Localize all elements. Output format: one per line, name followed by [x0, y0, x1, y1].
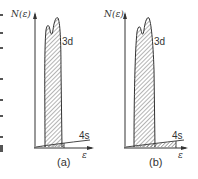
panel-a: N(ε) 3d 4s ε (a)	[10, 9, 94, 168]
cropped-text-fragment	[0, 32, 3, 34]
cropped-text-fragment	[0, 115, 3, 117]
band-3d-a	[45, 18, 62, 147]
band-3d-b	[134, 18, 155, 147]
panel-b: N(ε) 3d 4s ε (b)	[103, 9, 188, 168]
y-axis-label-b: N(ε)	[103, 9, 124, 19]
y-axis-label-a: N(ε)	[10, 9, 31, 19]
cropped-text-fragment	[0, 14, 3, 16]
y-axis-arrow-icon-a	[33, 12, 37, 19]
x-axis-arrow-icon-a	[87, 146, 94, 150]
band-4s-label-a: 4s	[79, 130, 90, 141]
cropped-text-fragment	[0, 145, 3, 152]
x-axis-label-a: ε	[82, 150, 87, 160]
cropped-text-fragment	[0, 47, 3, 49]
cropped-text-fragment	[0, 136, 3, 138]
density-of-states-figure: N(ε) 3d 4s ε (a) N(ε) 3d 4s ε (b)	[0, 0, 198, 179]
caption-a: (a)	[57, 156, 70, 168]
caption-b: (b)	[149, 156, 162, 168]
band-3d-label-b: 3d	[154, 36, 165, 47]
x-axis-label-b: ε	[178, 150, 183, 160]
band-3d-label-a: 3d	[62, 36, 73, 47]
band-4s-label-b: 4s	[172, 130, 183, 141]
cropped-text-fragment	[0, 99, 3, 101]
cropped-text-fragment	[0, 78, 3, 80]
